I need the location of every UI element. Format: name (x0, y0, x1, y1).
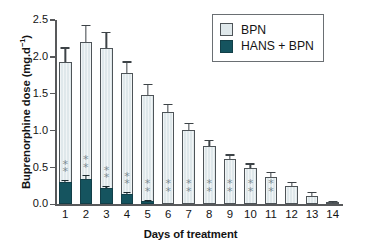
significance-marker: ** (124, 173, 130, 188)
error-bar-hans-bpn (126, 193, 127, 194)
y-axis-tick-label: 1.5 (0, 87, 48, 99)
y-axis-title: Buprenorphine dose (mg.d−1) (20, 12, 32, 212)
x-axis-tick-label: 8 (199, 208, 220, 220)
y-axis-tick (50, 19, 55, 20)
error-bar-bpn (147, 85, 148, 95)
error-bar-cap-bpn (328, 201, 337, 202)
error-bar-bpn (250, 165, 251, 169)
y-axis-tick-label: 2.0 (0, 50, 48, 62)
significance-marker: ** (186, 180, 192, 195)
error-bar-cap-hans-bpn (82, 175, 89, 176)
error-bar-cap-bpn (287, 182, 296, 183)
error-bar-bpn (167, 105, 168, 112)
bar-hans-bpn (80, 179, 93, 205)
bar-hans-bpn (59, 182, 72, 204)
significance-marker: ** (268, 180, 274, 195)
bar-group: ** (244, 20, 257, 204)
y-axis-tick-label: 1.0 (0, 124, 48, 136)
x-axis-tick-label: 11 (261, 208, 282, 220)
error-bar-cap-bpn (205, 140, 214, 141)
error-bar-bpn (85, 26, 86, 42)
error-bar-bpn (311, 193, 312, 195)
asterisk-icon: * (207, 188, 213, 196)
significance-marker: ** (63, 161, 69, 176)
x-axis-tick-label: 3 (96, 208, 117, 220)
bar-hans-bpn (100, 188, 113, 204)
y-axis-tick-label: 0.5 (0, 161, 48, 173)
x-axis-tick-label: 4 (117, 208, 138, 220)
y-axis-tick (50, 93, 55, 94)
error-bar-cap-bpn (122, 61, 131, 62)
error-bar-cap-bpn (225, 154, 234, 155)
error-bar-cap-bpn (61, 47, 70, 48)
bar-hans-bpn (141, 201, 154, 204)
significance-marker: ** (207, 180, 213, 195)
error-bar-cap-bpn (102, 32, 111, 33)
error-bar-bpn (65, 49, 66, 62)
error-bar-cap-bpn (266, 172, 275, 173)
error-bar-cap-hans-bpn (103, 186, 110, 187)
bar-bpn (285, 186, 298, 204)
bar-group: ** (141, 20, 154, 204)
x-axis-tick-label: 5 (137, 208, 158, 220)
chart-figure: Buprenorphine dose (mg.d−1) Days of trea… (0, 0, 381, 249)
x-axis-tick-label: 10 (240, 208, 261, 220)
bar-group: ** (203, 20, 216, 204)
bar-group: ** (100, 20, 113, 204)
error-bar-bpn (106, 33, 107, 48)
asterisk-icon: * (63, 168, 69, 176)
x-axis-tick-label: 14 (322, 208, 343, 220)
bar-group: ** (80, 20, 93, 204)
error-bar-cap-hans-bpn (62, 180, 69, 181)
significance-marker: ** (83, 156, 89, 171)
bar-group: ** (59, 20, 72, 204)
error-bar-cap-hans-bpn (144, 200, 151, 201)
bar-group: ** (224, 20, 237, 204)
error-bar-cap-hans-bpn (123, 192, 130, 193)
y-axis-tick (50, 204, 55, 205)
error-bar-cap-bpn (81, 25, 90, 26)
significance-marker: ** (104, 167, 110, 182)
asterisk-icon: * (165, 188, 171, 196)
asterisk-icon: * (124, 180, 130, 188)
x-axis-title: Days of treatment (0, 228, 381, 240)
x-axis-tick-label: 13 (302, 208, 323, 220)
significance-marker: ** (145, 180, 151, 195)
x-axis-tick-label: 1 (55, 208, 76, 220)
error-bar-hans-bpn (65, 181, 66, 182)
bar-group: ** (182, 20, 195, 204)
error-bar-cap-bpn (308, 192, 317, 193)
significance-marker: ** (248, 180, 254, 195)
bar-group (326, 20, 339, 204)
y-axis-title-exponent: −1 (18, 39, 27, 47)
bar-bpn (306, 196, 319, 205)
error-bar-bpn (332, 202, 333, 203)
error-bar-bpn (229, 156, 230, 160)
x-axis-tick-label: 9 (220, 208, 241, 220)
asterisk-icon: * (248, 188, 254, 196)
error-bar-cap-bpn (164, 104, 173, 105)
x-axis-tick-label: 7 (178, 208, 199, 220)
y-axis-tick-label: 2.5 (0, 13, 48, 25)
asterisk-icon: * (268, 188, 274, 196)
bar-group (285, 20, 298, 204)
error-bar-bpn (209, 141, 210, 146)
x-axis-tick-label: 12 (281, 208, 302, 220)
bar-group: ** (265, 20, 278, 204)
asterisk-icon: * (186, 188, 192, 196)
bar-group (306, 20, 319, 204)
y-axis-tick (50, 130, 55, 131)
asterisk-icon: * (145, 188, 151, 196)
x-axis-tick-label: 2 (76, 208, 97, 220)
error-bar-cap-bpn (184, 123, 193, 124)
y-axis-title-close: ) (20, 35, 32, 39)
y-axis-tick (50, 167, 55, 168)
error-bar-hans-bpn (106, 187, 107, 188)
error-bar-bpn (188, 124, 189, 130)
bar-hans-bpn (121, 194, 134, 204)
significance-marker: ** (165, 180, 171, 195)
bar-group: ** (121, 20, 134, 204)
asterisk-icon: * (104, 174, 110, 182)
error-bar-bpn (291, 183, 292, 186)
bar-group: ** (162, 20, 175, 204)
